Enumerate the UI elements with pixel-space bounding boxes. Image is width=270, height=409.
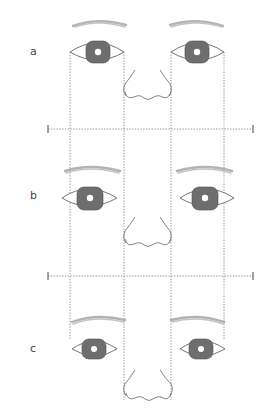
panel-a bbox=[70, 21, 224, 99]
panel-label-b: b bbox=[30, 190, 37, 201]
panel-b bbox=[62, 167, 234, 247]
panel-c bbox=[72, 317, 225, 401]
eye-right bbox=[171, 41, 224, 63]
panel-label-a: a bbox=[30, 46, 37, 57]
nose bbox=[124, 370, 173, 401]
horizontal-separator-2 bbox=[48, 272, 253, 280]
nose bbox=[124, 217, 172, 247]
face-proportion-diagram bbox=[0, 0, 270, 409]
eye-right bbox=[180, 187, 234, 210]
panel-label-c: c bbox=[30, 343, 36, 354]
eye-left bbox=[70, 41, 124, 63]
horizontal-separator-1 bbox=[48, 125, 253, 133]
nose bbox=[124, 70, 172, 100]
eye-right bbox=[180, 339, 225, 359]
eye-left bbox=[72, 339, 117, 359]
